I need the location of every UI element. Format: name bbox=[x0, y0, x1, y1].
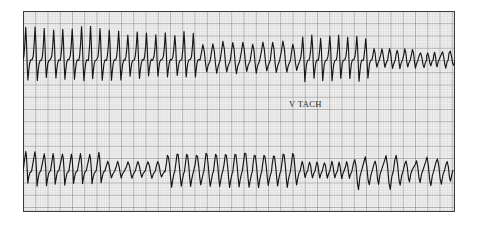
ecg-figure: V TACH bbox=[0, 0, 480, 226]
v-tach-label: V TACH bbox=[289, 99, 322, 109]
ecg-paper bbox=[23, 11, 455, 212]
